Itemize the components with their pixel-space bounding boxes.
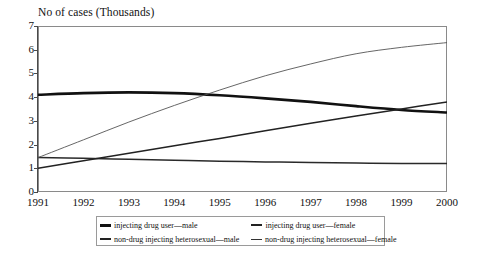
legend-item-non-drug-injecting-heterosexual-female[interactable]: non-drug injecting heterosexual—female (251, 232, 381, 246)
y-tick-label-7: 7 (8, 20, 34, 31)
y-tick-mark-0 (34, 192, 38, 193)
y-tick-label-4: 4 (8, 91, 34, 102)
legend-label: injecting drug user—male (114, 221, 198, 230)
series-line-0 (38, 92, 447, 112)
legend-item-injecting-drug-user-male[interactable]: injecting drug user—male (100, 218, 251, 232)
legend-swatch-icon (251, 239, 262, 240)
legend-row-2: non-drug injecting heterosexual—male non… (100, 232, 381, 246)
chart-axis-title: No of cases (Thousands) (38, 6, 154, 18)
x-tick-label-2000: 2000 (425, 196, 469, 208)
legend-label: non-drug injecting heterosexual—male (114, 235, 239, 244)
x-tick-label-1991: 1991 (16, 196, 60, 208)
legend-row-1: injecting drug user—male injecting drug … (100, 218, 381, 232)
chart-legend: injecting drug user—male injecting drug … (96, 216, 385, 246)
legend-item-non-drug-injecting-heterosexual-male[interactable]: non-drug injecting heterosexual—male (100, 232, 251, 246)
x-tick-label-1993: 1993 (107, 196, 151, 208)
series-line-3 (38, 43, 447, 158)
legend-swatch-icon (100, 238, 111, 240)
legend-swatch-icon (251, 224, 262, 226)
y-tick-label-1: 1 (8, 162, 34, 173)
y-tick-label-3: 3 (8, 115, 34, 126)
y-tick-label-6: 6 (8, 44, 34, 55)
legend-item-injecting-drug-user-female[interactable]: injecting drug user—female (251, 218, 381, 232)
x-tick-label-1996: 1996 (243, 196, 287, 208)
legend-swatch-icon (100, 224, 111, 227)
legend-label: non-drug injecting heterosexual—female (265, 235, 397, 244)
x-tick-label-1998: 1998 (334, 196, 378, 208)
y-tick-label-2: 2 (8, 139, 34, 150)
series-line-2 (38, 102, 447, 168)
x-tick-label-1999: 1999 (380, 196, 424, 208)
line-chart: No of cases (Thousands) 01234567 1991199… (0, 0, 478, 256)
plot-series-canvas (38, 26, 447, 192)
x-tick-label-1992: 1992 (61, 196, 105, 208)
legend-label: injecting drug user—female (265, 221, 355, 230)
x-tick-label-1997: 1997 (289, 196, 333, 208)
x-tick-label-1994: 1994 (152, 196, 196, 208)
y-tick-label-5: 5 (8, 67, 34, 78)
x-tick-label-1995: 1995 (198, 196, 242, 208)
